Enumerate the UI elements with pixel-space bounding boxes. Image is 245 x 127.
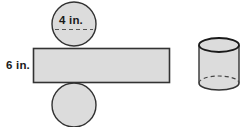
figure-canvas: 4 in. 6 in. <box>0 0 245 127</box>
cylinder-top-ellipse <box>199 38 239 52</box>
lateral-rectangle <box>34 49 170 83</box>
height-label: 6 in. <box>6 59 30 71</box>
diameter-label: 4 in. <box>59 14 83 26</box>
cylinder-net: 4 in. 6 in. <box>6 2 170 127</box>
solid-cylinder <box>199 38 239 90</box>
geometry-figure: 4 in. 6 in. <box>0 0 245 127</box>
bottom-circle <box>52 83 96 127</box>
